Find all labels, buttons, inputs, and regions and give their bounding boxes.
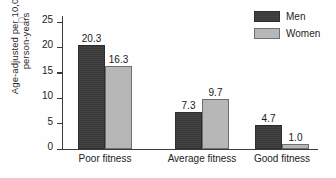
y-axis-title-line-1: Age-adjusted per 10,000 xyxy=(9,0,20,94)
x-axis-category-label: Poor fitness xyxy=(79,153,132,164)
bar-women: 16.3 xyxy=(105,66,132,149)
bar-men: 4.7 xyxy=(255,125,282,149)
legend-label: Men xyxy=(286,11,305,22)
y-axis-tick-label: 10 xyxy=(42,90,53,101)
y-axis-title: Age-adjusted per 10,000 person-years xyxy=(9,0,31,107)
y-axis-title-line-2: person-years xyxy=(20,0,31,107)
legend-swatch-women xyxy=(254,28,280,39)
bar-women: 1.0 xyxy=(282,144,309,149)
legend-item-women: Women xyxy=(254,26,320,40)
y-axis-tick-label: 20 xyxy=(42,39,53,50)
bar-value-label: 4.7 xyxy=(262,113,276,124)
bar-value-label: 20.3 xyxy=(82,33,101,44)
y-axis-tick-label: 15 xyxy=(42,65,53,76)
bar-group: 7.39.7 xyxy=(175,16,229,149)
y-axis-tick-mark xyxy=(57,22,62,23)
y-axis-tick-mark xyxy=(57,98,62,99)
chart-legend: MenWomen xyxy=(254,9,320,43)
bar-men: 7.3 xyxy=(175,112,202,149)
bar-women: 9.7 xyxy=(202,99,229,148)
bar-value-label: 16.3 xyxy=(109,54,128,65)
x-axis-category-label: Average fitness xyxy=(168,153,237,164)
bar-value-label: 9.7 xyxy=(209,87,223,98)
bar-value-label: 1.0 xyxy=(289,132,303,143)
x-axis-category-label: Good fitness xyxy=(254,153,310,164)
y-axis-line xyxy=(62,16,63,150)
legend-label: Women xyxy=(286,28,320,39)
bar-value-label: 7.3 xyxy=(182,100,196,111)
legend-swatch-men xyxy=(254,11,280,22)
x-axis-line xyxy=(62,149,318,150)
y-axis-tick-mark xyxy=(57,149,62,150)
y-axis-tick-mark xyxy=(57,47,62,48)
y-axis-tick-mark xyxy=(57,72,62,73)
y-axis-tick-label: 0 xyxy=(47,141,53,152)
y-axis-tick-label: 25 xyxy=(42,14,53,25)
y-axis-tick-mark xyxy=(57,123,62,124)
bar-men: 20.3 xyxy=(78,45,105,148)
bar-group: 20.316.3 xyxy=(78,16,132,149)
y-axis-tick-label: 5 xyxy=(47,116,53,127)
legend-item-men: Men xyxy=(254,9,320,23)
bar-chart-figure: Age-adjusted per 10,000 person-years 051… xyxy=(0,0,336,178)
